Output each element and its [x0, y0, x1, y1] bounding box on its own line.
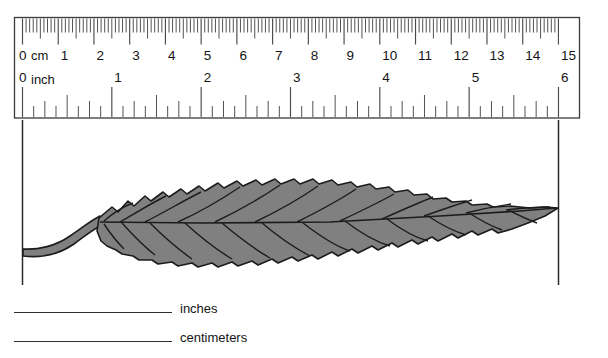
centimeters-answer-label: centimeters	[180, 330, 247, 345]
cm-label-group: 123456789101112131415	[61, 48, 576, 63]
inch-label-2: 2	[204, 70, 212, 85]
worksheet-page: 123456789101112131415 123456 0 cm 0 inch	[0, 0, 608, 358]
cm-label-4: 4	[168, 48, 176, 63]
inch-label-3: 3	[293, 70, 301, 85]
inch-zero-label: 0	[19, 70, 27, 85]
ruler: 123456789101112131415 123456 0 cm 0 inch	[15, 18, 580, 119]
inch-label-4: 4	[382, 70, 390, 85]
cm-unit-label: cm	[31, 48, 48, 63]
inch-unit-label: inch	[31, 72, 55, 87]
cm-label-14: 14	[525, 48, 541, 63]
cm-zero-label: 0	[19, 48, 27, 63]
cm-label-3: 3	[132, 48, 140, 63]
inches-answer-label: inches	[180, 301, 218, 316]
cm-label-7: 7	[275, 48, 283, 63]
cm-label-6: 6	[239, 48, 247, 63]
ruler-body	[15, 18, 580, 119]
cm-label-5: 5	[204, 48, 212, 63]
inches-answer-row: inches	[14, 296, 218, 316]
inch-label-5: 5	[472, 70, 480, 85]
cm-label-10: 10	[382, 48, 397, 63]
cm-label-2: 2	[96, 48, 104, 63]
cm-label-15: 15	[561, 48, 576, 63]
centimeters-answer-row: centimeters	[14, 325, 247, 345]
leaf-petiole	[23, 216, 104, 257]
centimeters-answer-line[interactable]	[14, 341, 172, 342]
inch-label-6: 6	[561, 70, 569, 85]
leaf-specimen	[23, 179, 558, 267]
cm-label-12: 12	[454, 48, 469, 63]
cm-label-11: 11	[418, 48, 432, 63]
cm-label-13: 13	[489, 48, 504, 63]
cm-label-8: 8	[311, 48, 319, 63]
inch-label-1: 1	[114, 70, 122, 85]
cm-label-1: 1	[61, 48, 69, 63]
cm-label-9: 9	[347, 48, 355, 63]
inches-answer-line[interactable]	[14, 312, 172, 313]
